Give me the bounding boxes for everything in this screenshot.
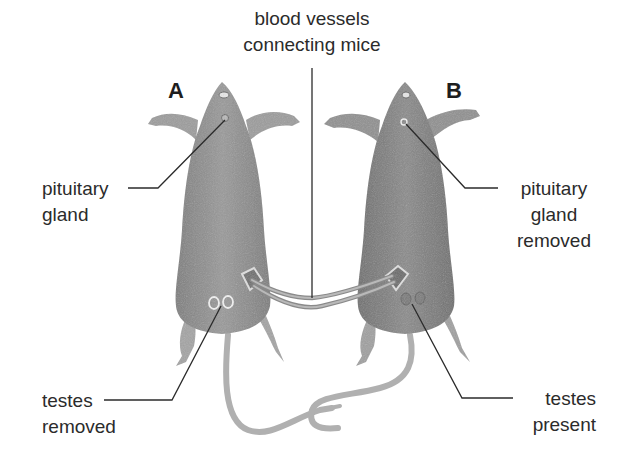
mouse-a-letter: A bbox=[168, 78, 184, 104]
label-line: gland bbox=[506, 202, 602, 228]
label-line: present bbox=[520, 412, 596, 438]
label-line: gland bbox=[42, 202, 109, 228]
label-line: blood vessels bbox=[232, 6, 392, 32]
mouse-b-pituitary-label: pituitary gland removed bbox=[506, 176, 602, 254]
mouse-a-testes-label: testes removed bbox=[42, 388, 116, 440]
mouse-a-pituitary-label: pituitary gland bbox=[42, 176, 109, 228]
mouse-a bbox=[148, 82, 300, 366]
label-line: testes bbox=[520, 386, 596, 412]
mouse-b bbox=[324, 82, 480, 366]
label-line: removed bbox=[42, 414, 116, 440]
label-line: testes bbox=[42, 388, 116, 414]
label-line: pituitary bbox=[506, 176, 602, 202]
label-line: connecting mice bbox=[232, 32, 392, 58]
parabiosis-diagram: blood vessels connecting mice A B pituit… bbox=[0, 0, 631, 462]
label-line: removed bbox=[506, 228, 602, 254]
label-line: pituitary bbox=[42, 176, 109, 202]
blood-vessels-label: blood vessels connecting mice bbox=[232, 6, 392, 58]
mouse-b-testes-label: testes present bbox=[520, 386, 596, 438]
mouse-b-letter: B bbox=[446, 78, 462, 104]
tail-a bbox=[226, 335, 340, 432]
